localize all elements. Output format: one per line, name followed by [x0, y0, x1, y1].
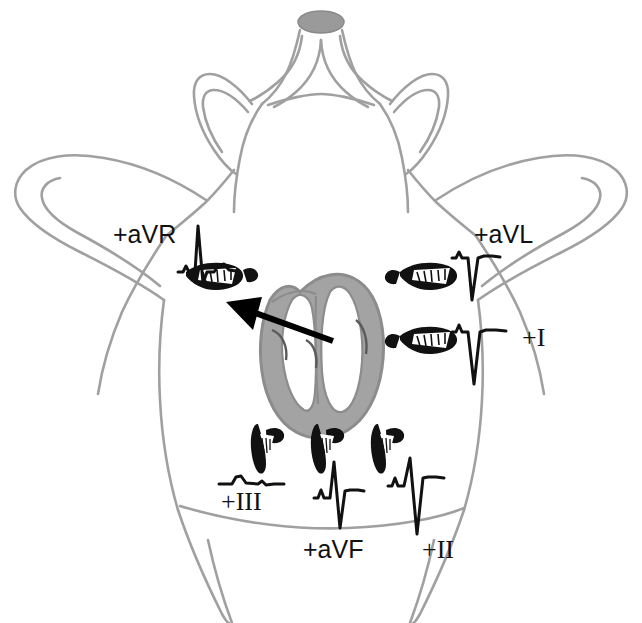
- lead-label-avr: +aVR: [113, 222, 176, 247]
- ecg-trace-lead-i: [452, 325, 506, 384]
- electrode-clip-lead-iii: [251, 424, 284, 474]
- lead-label-lead-ii: +II: [422, 537, 454, 563]
- ecg-trace-lead-ii: [388, 458, 444, 534]
- ecg-lead-axis-figure: +aVR +aVL +I +III +aVF +II: [0, 0, 642, 623]
- right-hindlimb-outline: [413, 510, 464, 623]
- right-forelimb-lower: [476, 236, 544, 394]
- thorax-right-outline: [408, 170, 476, 236]
- trunk-left-outline: [159, 300, 178, 510]
- electrode-clip-lead-i: [385, 327, 457, 354]
- electrode-clip-avf: [311, 424, 344, 474]
- ecg-trace-lead-iii: [219, 476, 284, 485]
- left-forelimb-lower: [98, 236, 166, 394]
- nose-shading: [298, 11, 344, 33]
- right-ear-outline: [390, 74, 448, 174]
- heart-cross-section: [260, 274, 383, 438]
- left-ear-outline: [194, 74, 252, 174]
- axis-arrow-head: [226, 297, 262, 330]
- figure-canvas: [0, 0, 642, 623]
- jaw-curve: [268, 94, 374, 105]
- head-right-cheek: [380, 104, 408, 212]
- lead-label-lead-iii: +III: [221, 489, 262, 515]
- head-left-cheek: [234, 104, 262, 212]
- lead-label-avl: +aVL: [474, 222, 533, 247]
- electrode-clip-lead-ii: [371, 424, 404, 474]
- lead-label-avf: +aVF: [303, 537, 363, 562]
- right-ventricle-lumen: [321, 287, 362, 413]
- lead-label-lead-i: +I: [522, 325, 545, 351]
- electrode-clip-avl: [385, 263, 457, 290]
- left-hindlimb-outline: [178, 510, 229, 623]
